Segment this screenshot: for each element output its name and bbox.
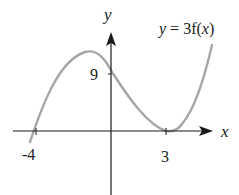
x-axis-label: x <box>220 122 229 141</box>
tick-label-y-9: 9 <box>90 66 98 83</box>
curve-3f <box>30 45 212 142</box>
y-axis-label: y <box>102 5 112 24</box>
tick-label-x-neg4: -4 <box>22 146 35 163</box>
function-label: y = 3f(x) <box>157 20 214 38</box>
function-graph: y x -4 3 9 y = 3f(x) <box>0 0 239 195</box>
tick-label-x-3: 3 <box>161 148 169 165</box>
